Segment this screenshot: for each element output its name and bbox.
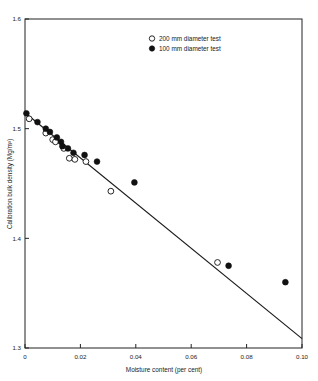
data-point [226, 263, 232, 269]
data-point [71, 150, 77, 156]
y-tick-label: 1.3 [12, 344, 21, 351]
y-axis-title: Calibration bulk density (Mg/m³) [6, 139, 14, 229]
legend-marker-open-circle [149, 36, 154, 41]
series-100mm-markers [23, 110, 288, 285]
x-axis-title: Moisture content (per cent) [126, 366, 202, 374]
data-point [35, 119, 41, 125]
data-point [282, 279, 288, 285]
y-tick-label: 1.4 [12, 235, 21, 242]
plot-frame [25, 19, 302, 348]
caption-sliver [0, 0, 318, 7]
data-point [72, 156, 78, 162]
data-point [66, 155, 72, 161]
y-tick-label: 1.6 [12, 15, 21, 22]
x-tick-label: 0.08 [241, 353, 254, 360]
data-point [82, 152, 88, 158]
x-tick-label: 0.02 [74, 353, 87, 360]
scatter-plot: 1.31.41.51.6 00.020.040.060.080.10 Calib… [0, 0, 318, 381]
legend-label-200mm: 200 mm diameter test [159, 35, 221, 42]
x-tick-label: 0.10 [296, 353, 309, 360]
y-tick-label: 1.5 [12, 125, 21, 132]
data-point [59, 143, 65, 149]
data-point [215, 260, 221, 266]
data-point [47, 129, 53, 135]
x-tick-label: 0.04 [130, 353, 143, 360]
data-point [26, 116, 32, 122]
x-axis-ticks: 00.020.040.060.080.10 [23, 344, 308, 360]
x-tick-label: 0 [23, 353, 27, 360]
x-tick-label: 0.06 [185, 353, 198, 360]
data-point [132, 180, 138, 186]
figure-container: 1.31.41.51.6 00.020.040.060.080.10 Calib… [0, 0, 318, 381]
legend-label-100mm: 100 mm diameter test [159, 45, 221, 52]
data-point [108, 188, 114, 194]
legend: 200 mm diameter test 100 mm diameter tes… [149, 35, 221, 52]
data-point [65, 146, 71, 152]
data-point [94, 159, 100, 165]
data-point [23, 110, 29, 116]
data-point [83, 159, 89, 165]
legend-marker-filled-circle [149, 46, 154, 51]
y-axis-ticks: 1.31.41.51.6 [12, 15, 29, 351]
